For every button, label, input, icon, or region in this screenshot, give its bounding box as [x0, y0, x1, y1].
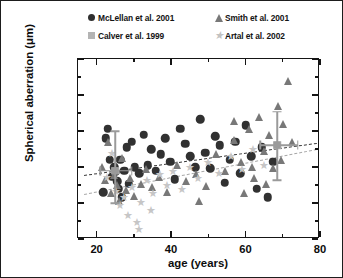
- data-point-star: ★: [145, 205, 156, 216]
- x-axis-tick: [319, 231, 320, 237]
- data-point-star: ★: [225, 151, 236, 162]
- legend-label-smith: Smith et al. 2001: [225, 13, 289, 23]
- data-point-triangle: [265, 131, 273, 139]
- data-point-triangle: [195, 197, 203, 205]
- x-axis-tick-label: 80: [300, 243, 340, 255]
- legend-label-artal: Artal et al. 2002: [225, 31, 285, 41]
- x-axis-tick-top: [319, 59, 320, 65]
- y-axis-tick-right: [312, 238, 318, 239]
- data-point-triangle: [262, 180, 270, 188]
- y-axis-minor-tick: [78, 112, 81, 113]
- data-point-triangle: [142, 165, 150, 173]
- legend-entry-calver: Calver et al. 1999: [85, 28, 164, 43]
- x-axis-minor-tick-top: [133, 59, 134, 62]
- y-axis-tick: [78, 202, 84, 203]
- y-axis-tick: [78, 58, 84, 59]
- data-point-circle: [220, 178, 229, 187]
- data-point-star: ★: [161, 180, 172, 191]
- data-point-circle: [211, 132, 220, 141]
- x-axis-tick-top: [170, 59, 171, 65]
- y-axis-minor-tick: [78, 220, 81, 221]
- circle-marker-icon: [85, 14, 98, 22]
- y-axis-tick-right: [312, 58, 318, 59]
- figure-container: McLellan et al. 2001 Smith et al. 2001 C…: [0, 0, 343, 278]
- data-point-triangle: [255, 113, 263, 121]
- x-axis-minor-tick-top: [282, 59, 283, 62]
- data-point-triangle: [279, 120, 287, 128]
- data-point-circle: [264, 193, 273, 202]
- y-axis-tick-right: [312, 202, 318, 203]
- calver-young-errorbar-marker: [112, 167, 119, 174]
- calver-old-errorbar-cap-top: [273, 111, 282, 113]
- y-axis-tick: [78, 238, 84, 239]
- y-axis-tick-right: [312, 94, 318, 95]
- data-point-triangle: [240, 189, 248, 197]
- y-axis-minor-tick-right: [315, 220, 318, 221]
- data-point-star: ★: [247, 144, 258, 155]
- data-point-star: ★: [203, 156, 214, 167]
- x-axis-minor-tick: [208, 234, 209, 237]
- x-axis-tick: [96, 231, 97, 237]
- data-point-triangle: [230, 136, 238, 144]
- data-point-circle: [181, 139, 190, 148]
- y-axis-tick: [78, 166, 84, 167]
- x-axis-tick: [245, 231, 246, 237]
- calver-old-errorbar-cap-bottom: [273, 179, 282, 181]
- data-point-star: ★: [192, 172, 203, 183]
- data-point-circle: [161, 134, 170, 143]
- data-point-star: ★: [148, 188, 159, 199]
- data-point-star: ★: [141, 175, 152, 186]
- calver-young-errorbar-cap-bottom: [111, 202, 120, 204]
- data-point-circle: [128, 138, 137, 147]
- data-point-triangle: [248, 163, 256, 171]
- data-point-triangle: [104, 138, 112, 146]
- y-axis-minor-tick: [78, 184, 81, 185]
- data-point-triangle: [230, 117, 238, 125]
- plot-area: ★★★★★★★★★★★★★★★★★★★★★★★★★: [78, 59, 318, 237]
- calver-old-errorbar-cap-right: [297, 141, 299, 150]
- x-axis-minor-tick: [133, 234, 134, 237]
- x-axis-tick-top: [245, 59, 246, 65]
- calver-young-errorbar-cap-left: [100, 166, 102, 175]
- x-axis-tick-top: [96, 59, 97, 65]
- data-point-triangle: [284, 77, 292, 85]
- legend-entry-artal: ★ Artal et al. 2002: [212, 28, 285, 43]
- data-point-triangle: [118, 154, 126, 162]
- x-axis-minor-tick-top: [208, 59, 209, 62]
- legend-entry-smith: Smith et al. 2001: [212, 10, 289, 25]
- data-point-circle: [196, 115, 205, 124]
- calver-old-errorbar-cap-left: [260, 141, 262, 150]
- data-point-circle: [176, 124, 185, 133]
- chart-legend: McLellan et al. 2001 Smith et al. 2001 C…: [85, 10, 317, 46]
- x-axis-tick-label: 20: [77, 243, 117, 255]
- data-point-star: ★: [236, 164, 247, 175]
- data-point-triangle: [245, 125, 253, 133]
- y-axis-label: Spherical aberration (μm): [23, 13, 35, 173]
- legend-label-calver: Calver et al. 1999: [98, 31, 164, 41]
- y-axis-tick-right: [312, 130, 318, 131]
- data-point-circle: [252, 184, 261, 193]
- x-axis-tick: [170, 231, 171, 237]
- data-point-circle: [147, 145, 156, 154]
- data-point-circle: [216, 141, 225, 150]
- data-point-triangle: [277, 156, 285, 164]
- data-point-star: ★: [167, 165, 178, 176]
- data-point-star: ★: [127, 182, 138, 193]
- x-axis-minor-tick: [282, 234, 283, 237]
- data-point-circle: [186, 152, 195, 161]
- legend-entry-mclellan: McLellan et al. 2001: [85, 10, 174, 25]
- data-point-triangle: [274, 102, 282, 110]
- calver-young-errorbar-cap-right: [131, 166, 133, 175]
- data-point-star: ★: [118, 192, 129, 203]
- y-axis-tick-right: [312, 166, 318, 167]
- data-point-triangle: [202, 182, 210, 190]
- data-point-star: ★: [214, 168, 225, 179]
- data-point-star: ★: [134, 224, 145, 235]
- data-point-circle: [156, 150, 165, 159]
- y-axis-minor-tick: [78, 148, 81, 149]
- square-marker-icon: [85, 32, 98, 39]
- y-axis-minor-tick-right: [315, 112, 318, 113]
- data-point-star: ★: [176, 183, 187, 194]
- calver-young-errorbar-cap-top: [111, 130, 120, 132]
- data-point-star: ★: [259, 160, 270, 171]
